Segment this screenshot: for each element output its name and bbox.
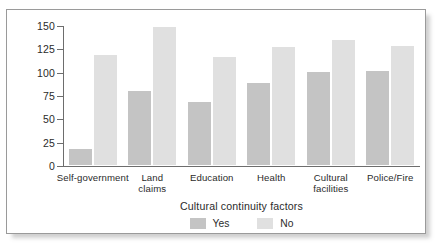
bar-yes [307,72,330,165]
y-tick-label: 0 [49,160,55,172]
bar-yes [69,149,92,165]
legend-entry: No [257,218,293,229]
legend-entry: Yes [190,218,230,229]
y-tick-mark [57,49,63,50]
y-tick-mark [57,143,63,144]
y-tick-label: 75 [43,90,55,102]
y-tick-label: 125 [37,43,55,55]
bar-yes [247,83,270,165]
y-tick-mark [57,26,63,27]
bar-yes [188,102,211,165]
x-axis-line [63,166,420,167]
bar-no [332,40,355,165]
legend-swatch-yes [190,218,206,229]
y-tick-label: 50 [43,113,55,125]
chart-figure-frame: Suicide rate (per 100,000) 0255075100125… [6,9,426,234]
bar-no [153,27,176,165]
bar-group [188,25,236,165]
bar-group [247,25,295,165]
x-axis-title: Cultural continuity factors [63,200,420,212]
category-label: Police/Fire [354,172,426,183]
legend-swatch-no [257,218,273,229]
y-tick-mark [57,166,63,167]
y-tick-label: 150 [37,20,55,32]
y-axis-line [63,26,64,167]
y-tick-mark [57,73,63,74]
bar-group [366,25,414,165]
y-tick-mark [57,119,63,120]
legend-label: No [280,218,293,229]
legend-label: Yes [213,218,230,229]
chart-legend: YesNo [63,218,420,229]
bar-no [391,46,414,165]
y-tick-mark [57,96,63,97]
bar-group [69,25,117,165]
bar-yes [128,91,151,165]
y-tick-label: 25 [43,137,55,149]
plot-area: 0255075100125150 Self-governmentLand cla… [63,26,420,166]
y-tick-label: 100 [37,67,55,79]
bar-yes [366,71,389,165]
bar-no [94,55,117,165]
bar-group [128,25,176,165]
bar-group [307,25,355,165]
bar-no [272,47,295,165]
bar-no [213,57,236,165]
